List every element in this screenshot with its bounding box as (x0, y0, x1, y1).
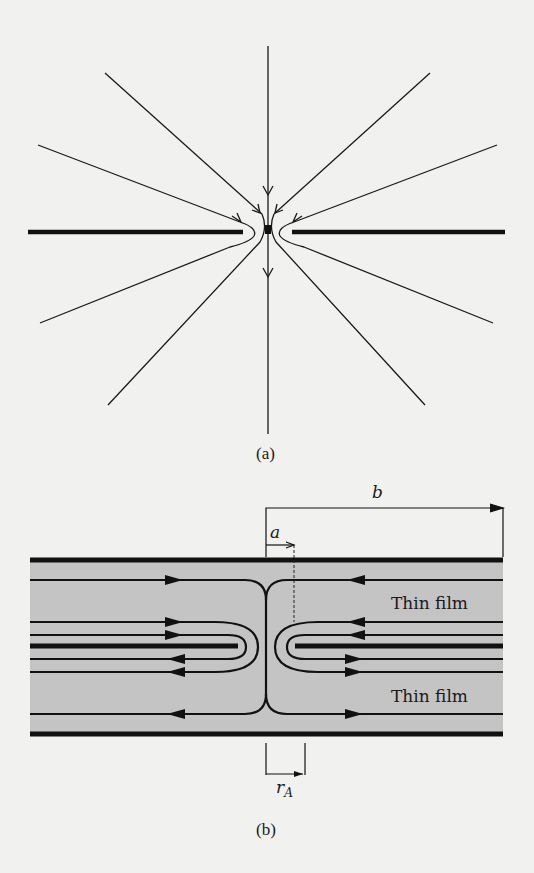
thin-film-label-bottom: Thin film (391, 686, 468, 706)
dimension-a-label: a (270, 522, 280, 542)
figure: (a) (0, 0, 534, 873)
figure-a-caption: (a) (256, 444, 275, 464)
figure-b-caption: (b) (256, 820, 276, 840)
dimension-b-label: b (372, 482, 383, 502)
rA-base: r (276, 777, 284, 797)
dimension-rA-label: rA (276, 777, 293, 800)
thin-film-label-top: Thin film (391, 593, 468, 613)
rA-subscript: A (284, 786, 293, 800)
figure-a-diagram (0, 0, 534, 460)
thin-film-region (30, 560, 503, 734)
